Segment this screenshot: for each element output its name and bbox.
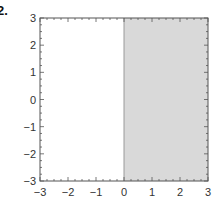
shaded-region <box>124 18 208 181</box>
y-tick-label: 3 <box>30 12 36 24</box>
y-tick-label: 2 <box>30 39 36 51</box>
region-plot: −3−2−10123 −3−2−10123 <box>0 0 222 208</box>
y-tick-label: −3 <box>23 175 36 187</box>
x-axis-tick-labels: −3−2−10123 <box>34 186 211 198</box>
y-tick-label: 0 <box>30 94 36 106</box>
x-tick-label: 1 <box>149 186 155 198</box>
x-tick-label: −1 <box>90 186 103 198</box>
y-tick-label: 1 <box>30 66 36 78</box>
y-tick-label: −2 <box>23 148 36 160</box>
x-tick-label: −2 <box>62 186 75 198</box>
y-axis-tick-labels: −3−2−10123 <box>23 12 36 187</box>
shaded-area <box>124 18 208 181</box>
x-tick-label: −3 <box>34 186 47 198</box>
x-tick-label: 3 <box>205 186 211 198</box>
x-tick-label: 2 <box>177 186 183 198</box>
y-tick-label: −1 <box>23 121 36 133</box>
x-tick-label: 0 <box>121 186 127 198</box>
